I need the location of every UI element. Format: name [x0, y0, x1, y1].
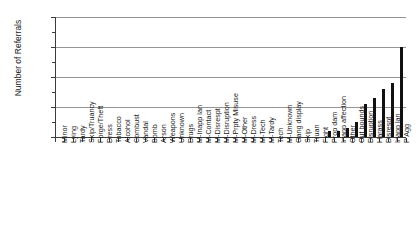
x-tick-label: M-Disruption [224, 102, 231, 143]
x-tick-label: Disruption [368, 111, 375, 143]
x-tick-label: M-Dress [251, 116, 258, 143]
x-tick-label: Gang display [296, 101, 303, 143]
x-tick-label: Tech [278, 128, 285, 143]
x-tick-label: Disrespt [386, 117, 393, 143]
x-tick-label: Other [350, 125, 357, 143]
x-tick-label: Drugs [188, 124, 195, 143]
x-tick-label: M-Tech [260, 119, 267, 143]
x-tick-label: M-Contact [206, 110, 213, 143]
x-tick-label: Out bounds [359, 106, 366, 143]
x-tick-label: Minor [62, 125, 69, 143]
x-tick-label: Truan [314, 124, 321, 143]
x-tick-label: Lying [71, 126, 78, 143]
x-axis-tick-labels: MinorLyingTardySkip/TruancyForge/TheftDr… [55, 143, 406, 235]
y-axis-title: Number of Referrals [13, 0, 23, 118]
x-tick-label: M-Tardy [269, 117, 276, 143]
bar-cell [307, 17, 316, 137]
x-tick-label: M-Inapp lan [197, 105, 204, 143]
x-tick-label: M-Other [242, 117, 249, 143]
x-tick-label: Skip/Truancy [89, 101, 96, 143]
x-tick-label: Inapp affection [341, 96, 348, 143]
bar-cell [73, 17, 82, 137]
x-tick-label: M-Prpty Misuse [233, 93, 240, 143]
x-tick-label: Skip [305, 129, 312, 143]
bar-cell [145, 17, 154, 137]
x-tick-label: M-Disrespt [215, 108, 222, 143]
referrals-bar-chart: Number of Referrals 010203040 MinorLying… [0, 0, 416, 236]
bar-cell [316, 17, 325, 137]
x-tick-label: Unknown [179, 113, 186, 143]
x-tick-label: M-Unknown [287, 105, 294, 143]
x-tick-label: Inapp lan [395, 113, 402, 143]
x-tick-label: Arson [161, 124, 168, 143]
x-tick-label: Forge/Theft [98, 106, 105, 143]
bar-cell [64, 17, 73, 137]
x-tick-label: P Agg [404, 124, 411, 143]
x-tick-label: Combust [134, 114, 141, 143]
x-tick-mark [55, 138, 56, 142]
bar-cell [55, 17, 64, 137]
x-tick-label: Alcohol [125, 119, 132, 143]
x-tick-label: Bomb [152, 124, 159, 143]
x-tick-label: Harass [377, 120, 384, 143]
x-tick-label: Tobacco [116, 116, 123, 143]
x-tick-label: Tardy [80, 125, 87, 143]
x-tick-label: Vandal [143, 121, 150, 143]
x-tick-label: Dress [107, 124, 114, 143]
bar-cell [154, 17, 163, 137]
x-tick-label: Prop dam [332, 112, 339, 143]
x-tick-label: Weapons [170, 113, 177, 143]
x-tick-label: Fight [323, 127, 330, 143]
